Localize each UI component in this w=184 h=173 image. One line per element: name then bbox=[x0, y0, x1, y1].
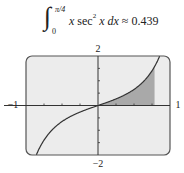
y-min-label: −2 bbox=[93, 158, 104, 169]
y-max-label: 2 bbox=[96, 43, 101, 54]
graph-plot: 2 −2 −1 1 bbox=[0, 0, 184, 173]
x-min-label: −1 bbox=[8, 99, 19, 110]
x-max-label: 1 bbox=[176, 99, 181, 110]
